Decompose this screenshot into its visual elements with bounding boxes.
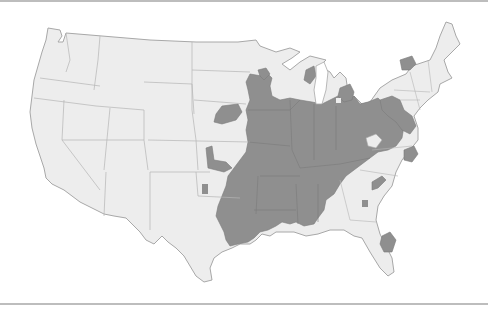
us-choropleth-map xyxy=(0,0,488,311)
shaded-county-georgia xyxy=(362,200,368,207)
unshaded-pocket-michigan xyxy=(336,98,341,103)
us-land xyxy=(30,22,460,282)
shaded-region-florida xyxy=(380,232,396,252)
bottom-rule xyxy=(0,303,488,305)
shaded-county-oklahoma xyxy=(202,184,208,194)
